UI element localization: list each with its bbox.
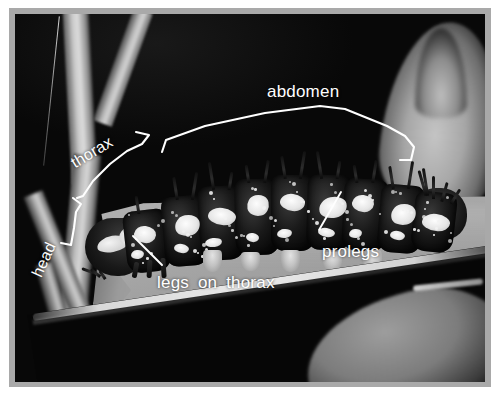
white-speckle xyxy=(353,232,356,235)
white-speckle xyxy=(319,229,321,231)
white-speckle xyxy=(273,225,275,227)
photo-frame: abdomen thorax head prolegs legs on thor… xyxy=(9,8,491,387)
white-speckle xyxy=(426,201,429,204)
white-speckle xyxy=(243,235,245,237)
white-speckle xyxy=(372,199,374,201)
white-speckle xyxy=(399,192,402,195)
white-speckle xyxy=(139,233,142,236)
white-speckle xyxy=(435,227,438,230)
proleg xyxy=(241,252,260,271)
white-speckle xyxy=(433,234,435,236)
white-speckle xyxy=(303,201,305,203)
proleg xyxy=(281,250,300,272)
white-speckle xyxy=(190,236,192,238)
white-speckle xyxy=(247,244,250,247)
white-speckle xyxy=(254,188,257,191)
white-speckle xyxy=(296,191,298,193)
white-speckle xyxy=(128,214,130,216)
white-speckle xyxy=(413,228,416,231)
figure-root: abdomen thorax head prolegs legs on thor… xyxy=(0,0,504,408)
white-speckle xyxy=(330,183,333,186)
white-speckle xyxy=(424,208,426,210)
white-speckle xyxy=(406,210,409,213)
white-speckle xyxy=(450,232,452,234)
white-speckle xyxy=(379,213,381,215)
white-speckle xyxy=(395,191,397,193)
tail-spine xyxy=(432,176,435,199)
white-speckle xyxy=(197,252,199,254)
white-speckle xyxy=(220,210,222,212)
white-speckle xyxy=(231,229,234,232)
white-speckle xyxy=(171,211,174,214)
proleg xyxy=(203,250,222,272)
white-speckle xyxy=(323,237,326,240)
white-speckle xyxy=(289,181,291,183)
white-speckle xyxy=(312,218,314,220)
white-speckle xyxy=(307,210,310,213)
white-speckle xyxy=(142,262,144,264)
thoracic-leg xyxy=(147,260,153,278)
white-speckle xyxy=(135,238,137,240)
white-speckle xyxy=(402,209,404,211)
white-speckle xyxy=(346,218,349,221)
white-speckle xyxy=(224,217,227,220)
white-speckle xyxy=(213,198,215,200)
photograph: abdomen thorax head prolegs legs on thor… xyxy=(15,14,485,382)
